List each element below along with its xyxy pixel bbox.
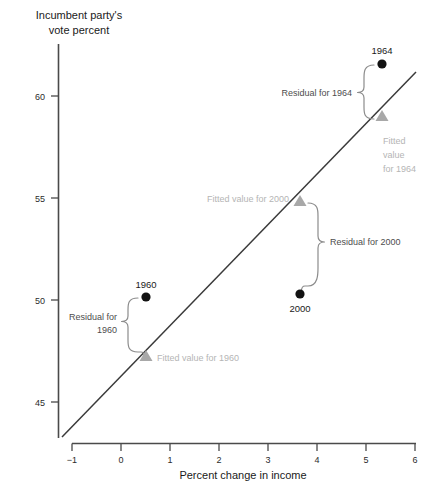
fitted-label-2000: Fitted value for 2000 [207,194,289,204]
x-tick-label-2: 2 [216,455,221,465]
scatter-plot-figure: 60 55 50 45 −1 0 1 2 3 4 5 6 Incumbent p… [0,0,425,492]
x-tick-label-5: 5 [363,455,368,465]
data-group-1960: 1960 Residual for 1960 Fitted value for … [69,279,239,363]
fitted-label-1964-line2: value [383,150,405,160]
y-tick-label-45: 45 [35,398,45,408]
x-tick-label-minus1: −1 [67,455,77,465]
residual-label-1960-line1: Residual for [69,312,117,322]
residual-brace-2000 [302,203,325,291]
data-group-1964: 1964 Residual for 1964 Fitted value for … [281,45,416,174]
data-group-2000: Fitted value for 2000 Residual for 2000 … [207,194,401,314]
chart-canvas: 60 55 50 45 −1 0 1 2 3 4 5 6 Incumbent p… [0,0,425,492]
x-tick-label-1: 1 [167,455,172,465]
x-axis-title: Percent change in income [179,469,306,481]
residual-brace-1960 [122,298,145,356]
residual-label-2000: Residual for 2000 [330,237,401,247]
x-tick-label-6: 6 [412,455,417,465]
y-tick-label-60: 60 [35,92,45,102]
point-label-2000: 2000 [289,303,310,314]
x-tick-label-3: 3 [265,455,270,465]
y-axis-ticks: 60 55 50 45 [35,92,59,408]
x-tick-label-4: 4 [314,455,319,465]
x-tick-label-0: 0 [118,455,123,465]
y-tick-label-55: 55 [35,194,45,204]
fitted-label-1964-line1: Fitted [383,136,406,146]
fitted-label-1964-line3: for 1964 [383,164,416,174]
data-point-1960[interactable] [141,292,150,301]
y-tick-label-50: 50 [35,296,45,306]
x-axis-ticks: −1 0 1 2 3 4 5 6 [67,444,418,466]
regression-line [62,72,416,437]
data-point-2000[interactable] [295,289,304,298]
residual-label-1960-line2: 1960 [97,325,117,335]
y-axis-title-line1: Incumbent party's [36,9,123,21]
point-label-1960: 1960 [135,279,156,290]
point-label-1964: 1964 [371,45,392,56]
y-axis-title-line2: vote percent [49,24,110,36]
fitted-label-1960: Fitted value for 1960 [157,353,239,363]
data-point-1964[interactable] [377,59,386,68]
residual-brace-1964 [358,65,375,119]
residual-label-1964: Residual for 1964 [281,88,352,98]
